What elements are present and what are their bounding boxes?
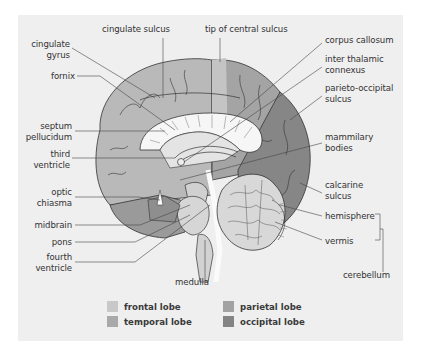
- label-fourth-ventricle: fourth ventricle: [22, 252, 72, 273]
- legend-label: temporal lobe: [124, 317, 192, 327]
- label-mammilary-bodies: mammilary bodies: [325, 132, 373, 153]
- label-medulla: medulla: [175, 277, 209, 288]
- label-line: pons: [22, 237, 72, 248]
- label-line: optic: [22, 187, 72, 198]
- label-line: connexus: [325, 65, 384, 76]
- label-line: inter thalamic: [325, 54, 384, 65]
- label-line: cingulate: [30, 39, 70, 50]
- label-line: ventricle: [22, 160, 70, 171]
- label-line: pellucidum: [22, 132, 72, 143]
- label-line: sulcus: [325, 94, 393, 105]
- legend-swatch: [223, 316, 234, 327]
- legend-swatch: [107, 301, 118, 312]
- label-line: sulcus: [325, 191, 363, 202]
- label-cingulate-gyrus: cingulate gyrus: [30, 39, 70, 60]
- label-inter-thalamic-connexus: inter thalamic connexus: [325, 54, 384, 75]
- label-third-ventricle: third ventricle: [22, 149, 70, 170]
- label-hemisphere: hemisphere: [325, 211, 375, 222]
- legend-item-parietal-lobe: parietal lobe: [223, 301, 302, 312]
- label-line: calcarine: [325, 180, 363, 191]
- legend-swatch: [107, 316, 118, 327]
- label-line: ventricle: [22, 263, 72, 274]
- label-line: third: [22, 149, 70, 160]
- label-septum-pellucidum: septum pellucidum: [22, 121, 72, 142]
- label-line: mammilary: [325, 132, 373, 143]
- label-optic-chiasma: optic chiasma: [22, 187, 72, 208]
- legend-item-temporal-lobe: temporal lobe: [107, 316, 192, 327]
- legend-label: parietal lobe: [240, 302, 302, 312]
- label-line: midbrain: [22, 220, 72, 231]
- legend-label: occipital lobe: [240, 317, 305, 327]
- label-pons: pons: [22, 237, 72, 248]
- legend-swatch: [223, 301, 234, 312]
- label-line: fornix: [30, 71, 75, 82]
- legend-label: frontal lobe: [124, 302, 181, 312]
- medulla-shape: [196, 234, 213, 282]
- label-parieto-occipital-sulcus: parieto-occipital sulcus: [325, 83, 393, 104]
- label-line: vermis: [325, 236, 353, 247]
- label-corpus-callosum: corpus callosum: [325, 35, 393, 46]
- label-line: fourth: [22, 252, 72, 263]
- label-midbrain: midbrain: [22, 220, 72, 231]
- label-line: hemisphere: [325, 211, 375, 222]
- label-cingulate-sulcus: cingulate sulcus: [102, 24, 170, 35]
- label-line: bodies: [325, 143, 373, 154]
- label-fornix: fornix: [30, 71, 75, 82]
- legend-item-frontal-lobe: frontal lobe: [107, 301, 181, 312]
- label-cerebellum: cerebellum: [343, 270, 390, 281]
- label-line: septum: [22, 121, 72, 132]
- legend-item-occipital-lobe: occipital lobe: [223, 316, 305, 327]
- label-line: chiasma: [22, 198, 72, 209]
- label-line: parieto-occipital: [325, 83, 393, 94]
- label-vermis: vermis: [325, 236, 353, 247]
- label-tip-of-central-sulcus: tip of central sulcus: [205, 24, 288, 35]
- label-calcarine-sulcus: calcarine sulcus: [325, 180, 363, 201]
- label-line: corpus callosum: [325, 35, 393, 46]
- label-line: gyrus: [30, 50, 70, 61]
